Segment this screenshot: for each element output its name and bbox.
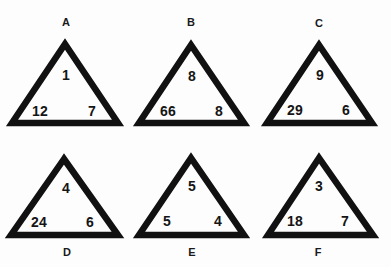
triangle-left-number: 29 [277,102,313,118]
triangle-top-number: 3 [301,178,337,194]
triangle-left-number: 66 [150,103,186,119]
triangle-left-number: 12 [22,103,58,119]
triangle-cell-c: C 9 29 6 [260,0,390,133]
triangle-right-number: 6 [328,102,364,118]
triangle-cell-e: 5 5 4 E [130,133,260,266]
triangle-top-number: 4 [48,180,84,196]
triangle-top-number: 5 [174,178,210,194]
triangle-left-number: 18 [277,213,313,229]
triangle-label: D [52,246,82,258]
triangle-label: F [303,246,333,258]
triangle-top-number: 9 [302,67,338,83]
triangle-right-number: 8 [201,103,237,119]
triangle-cell-a: A 1 12 7 [0,0,130,133]
triangle-cell-d: 4 24 6 D [0,133,130,266]
number-triangle-puzzle: A 1 12 7 B 8 66 8 C 9 29 6 4 24 6 D [0,0,391,267]
triangle-left-number: 24 [21,214,57,230]
triangle-right-number: 4 [200,213,236,229]
triangle-cell-f: 3 18 7 F [260,133,390,266]
triangle-top-number: 8 [174,68,210,84]
triangle-right-number: 7 [327,213,363,229]
triangle-right-number: 6 [72,214,108,230]
triangle-top-number: 1 [48,67,84,83]
triangle-cell-b: B 8 66 8 [130,0,260,133]
triangle-left-number: 5 [149,213,185,229]
triangle-right-number: 7 [74,103,110,119]
triangle-label: E [177,246,207,258]
